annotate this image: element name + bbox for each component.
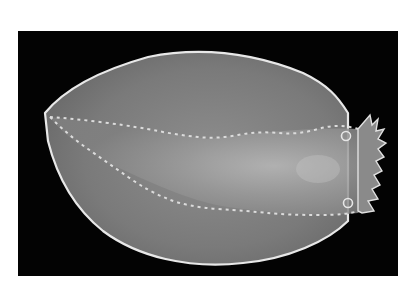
image-canvas: [0, 0, 417, 294]
specimen-illustration: [18, 31, 398, 276]
specimen-photo: [18, 31, 398, 276]
head-fringe: [358, 115, 386, 213]
body-highlight: [296, 155, 340, 183]
